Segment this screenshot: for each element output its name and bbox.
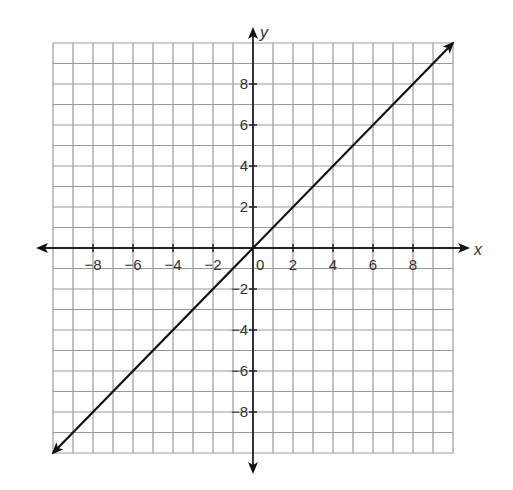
- x-tick-label: 0: [256, 256, 264, 273]
- y-tick-label: 8: [240, 75, 248, 92]
- x-axis-label: x: [473, 241, 483, 258]
- y-tick-label: −4: [231, 321, 248, 338]
- x-tick-label: 6: [369, 256, 377, 273]
- axes: [38, 29, 468, 472]
- x-tick-label: −6: [124, 256, 141, 273]
- coordinate-plane: −8−6−4−202468−8−6−4−22468 x y: [0, 0, 513, 490]
- y-tick-label: −8: [231, 403, 248, 420]
- y-tick-label: 2: [240, 198, 248, 215]
- x-tick-label: −4: [164, 256, 181, 273]
- y-axis-label: y: [259, 24, 269, 41]
- x-tick-label: 4: [329, 256, 337, 273]
- y-tick-label: 4: [240, 157, 248, 174]
- y-tick-label: −6: [231, 362, 248, 379]
- x-tick-label: −8: [84, 256, 101, 273]
- y-tick-label: −2: [231, 280, 248, 297]
- x-tick-label: 8: [409, 256, 417, 273]
- y-tick-label: 6: [240, 116, 248, 133]
- x-tick-label: 2: [289, 256, 297, 273]
- x-tick-label: −2: [204, 256, 221, 273]
